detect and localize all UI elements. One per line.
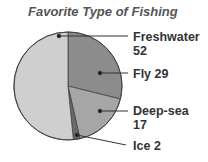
pie-chart bbox=[0, 0, 208, 162]
label-fly-name: Fly bbox=[133, 67, 151, 81]
label-ice-value: 2 bbox=[154, 139, 161, 153]
label-freshwater-name: Freshwater bbox=[133, 30, 200, 44]
label-fly: Fly 29 bbox=[133, 67, 168, 81]
slice-freshwater bbox=[14, 32, 74, 140]
label-deep-sea-value: 17 bbox=[133, 118, 189, 132]
label-ice-name: Ice bbox=[133, 139, 150, 153]
label-fly-value: 29 bbox=[155, 67, 169, 81]
label-deep-sea-name: Deep-sea bbox=[133, 104, 189, 118]
label-ice: Ice 2 bbox=[133, 139, 161, 153]
label-freshwater: Freshwater 52 bbox=[133, 30, 200, 58]
label-freshwater-value: 52 bbox=[133, 44, 200, 58]
label-deep-sea: Deep-sea 17 bbox=[133, 104, 189, 132]
